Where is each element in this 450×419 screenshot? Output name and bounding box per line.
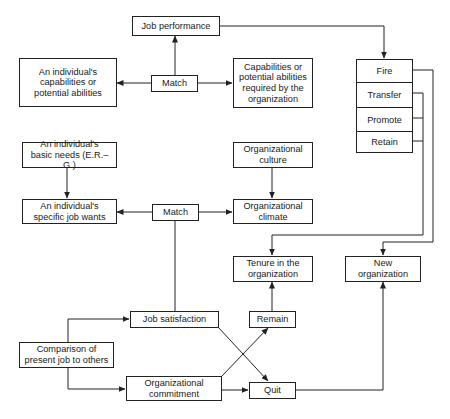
node-label-line: potential abilities (239, 72, 307, 83)
node-label: Transfer (368, 90, 402, 100)
node-org-commitment: Organizational commitment (126, 376, 222, 401)
node-label: Remain (257, 314, 289, 325)
node-label-line: present job to others (25, 355, 109, 366)
outcome-fire: Fire (357, 60, 412, 83)
node-label-line: commitment (149, 389, 199, 400)
node-label-line: required by the (242, 83, 303, 94)
node-tenure: Tenure in the organization (233, 256, 313, 282)
node-match-bottom: Match (152, 204, 199, 221)
node-comparison: Comparison of present job to others (19, 342, 114, 368)
node-basic-needs: An individual's basic needs (E.R.–G.) (22, 142, 117, 168)
node-label-line: potential abilities (34, 88, 102, 99)
node-label: Promote (367, 115, 402, 125)
node-label: Quit (264, 385, 281, 396)
node-label-line: climate (258, 212, 287, 223)
node-job-performance: Job performance (132, 16, 220, 36)
node-label: Job satisfaction (143, 314, 206, 325)
node-label-line: Comparison of (37, 344, 97, 355)
node-label-line: Capabilities or (244, 62, 302, 73)
node-label-line: Organizational (243, 144, 302, 155)
node-label: Match (162, 78, 187, 89)
outcome-retain: Retain (357, 132, 412, 152)
node-org-culture: Organizational culture (233, 142, 313, 168)
node-label-line: An individual's (40, 201, 98, 212)
node-label-line: Organizational (144, 378, 203, 389)
node-individual-capabilities: An individual's capabilities or potentia… (19, 58, 117, 107)
node-new-organization: New organization (345, 256, 421, 282)
node-label: Match (163, 207, 188, 218)
node-label-line: basic needs (E.R.–G.) (25, 150, 114, 171)
flow-diagram: Job performance An individual's capabili… (0, 0, 450, 419)
node-label-line: New (374, 258, 392, 269)
node-label: Job performance (142, 21, 211, 32)
node-label-line: capabilities or (40, 77, 96, 88)
node-quit: Quit (249, 382, 296, 399)
node-specific-job-wants: An individual's specific job wants (22, 199, 117, 224)
node-org-capabilities: Capabilities or potential abilities requ… (233, 58, 313, 108)
node-label-line: Tenure in the (246, 258, 299, 269)
node-label-line: An individual's (39, 67, 97, 78)
node-outcomes: Fire Transfer Promote Retain (356, 59, 413, 153)
node-label-line: organization (358, 269, 408, 280)
node-remain: Remain (249, 311, 296, 328)
node-job-satisfaction: Job satisfaction (130, 311, 219, 328)
node-match-top: Match (151, 75, 198, 92)
node-label-line: organization (248, 269, 298, 280)
node-label-line: organization (248, 94, 298, 105)
outcome-transfer: Transfer (357, 83, 412, 108)
node-label-line: An individual's (40, 139, 98, 150)
node-label-line: specific job wants (33, 212, 105, 223)
node-org-climate: Organizational climate (233, 199, 313, 224)
node-label-line: culture (259, 155, 287, 166)
node-label-line: Organizational (243, 201, 302, 212)
node-label: Fire (377, 66, 393, 76)
node-label: Retain (371, 137, 398, 147)
outcome-promote: Promote (357, 108, 412, 132)
